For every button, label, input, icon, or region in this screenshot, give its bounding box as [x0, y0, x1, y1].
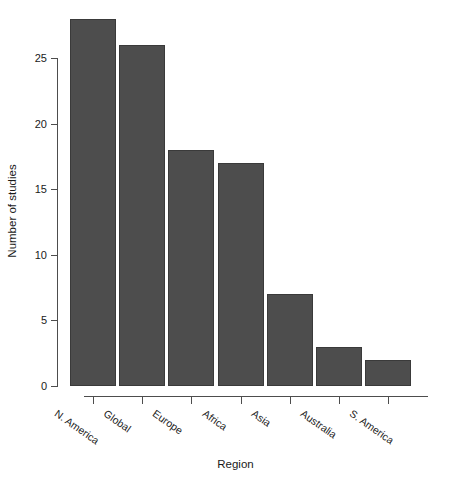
x-axis-title: Region — [0, 458, 471, 471]
bar-chart: 0510152025 Number of studies N. AmericaG… — [0, 0, 471, 490]
y-tick — [51, 386, 58, 387]
y-tick — [51, 320, 58, 321]
y-tick-label: 5 — [3, 315, 47, 326]
x-tick-label: N. America — [53, 408, 101, 446]
bar — [218, 163, 264, 386]
x-tick-label: Africa — [200, 408, 228, 432]
y-tick — [51, 255, 58, 256]
x-tick-label: Australia — [299, 408, 339, 440]
x-tick — [191, 396, 192, 404]
bar — [316, 347, 362, 386]
y-tick — [51, 189, 58, 190]
bar — [267, 294, 313, 386]
x-tick-label: Europe — [151, 408, 185, 436]
x-tick-label: S. America — [348, 408, 396, 446]
y-tick — [51, 58, 58, 59]
y-tick-label: 20 — [3, 119, 47, 130]
y-tick — [51, 124, 58, 125]
x-tick — [388, 396, 389, 404]
x-tick — [93, 396, 94, 404]
bar — [119, 45, 165, 386]
bar — [168, 150, 214, 386]
x-tick — [241, 396, 242, 404]
y-axis-title: Number of studies — [6, 136, 18, 286]
plot-area — [66, 0, 462, 386]
x-tick — [339, 396, 340, 404]
bar — [365, 360, 411, 386]
y-axis-line — [57, 58, 58, 386]
y-tick-label: 25 — [3, 53, 47, 64]
y-tick-label: 0 — [3, 381, 47, 392]
x-tick-label: Global — [102, 408, 133, 434]
bar — [70, 19, 116, 386]
x-tick-label: Asia — [249, 408, 272, 429]
x-axis-line — [84, 396, 428, 397]
x-tick — [290, 396, 291, 404]
x-tick — [142, 396, 143, 404]
